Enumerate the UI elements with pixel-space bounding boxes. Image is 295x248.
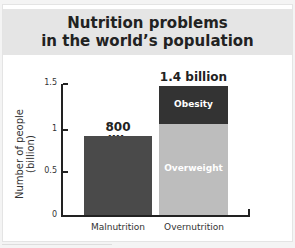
bar-malnutrition (84, 136, 152, 215)
y-axis-line (61, 84, 63, 217)
divider (2, 244, 112, 245)
y-axis-label: Number of people (billion) (14, 94, 36, 214)
y-tick-label: 1.5 (27, 78, 57, 87)
segment-label-obesity: Obesity (159, 99, 228, 109)
x-axis-line (61, 215, 250, 217)
y-tick-1 (63, 129, 68, 131)
y-tick-0.5 (63, 171, 68, 173)
bar-total-label: 1.4 billion (159, 70, 228, 84)
category-label: Malnutrition (79, 222, 157, 232)
y-tick-1.5 (63, 83, 68, 85)
chart-card: Nutrition problems in the world’s popula… (2, 4, 293, 242)
y-tick-label: 1 (27, 124, 57, 133)
category-label: Overnutrition (153, 222, 235, 232)
segment-label-overweight: Overweight (159, 163, 228, 173)
y-tick-label: 0.5 (27, 166, 57, 175)
y-tick-label: 0 (27, 210, 57, 219)
plot-area: Number of people (billion) 1.5 1 0.5 0 8… (3, 5, 292, 241)
x-axis-end-tick (248, 209, 250, 217)
